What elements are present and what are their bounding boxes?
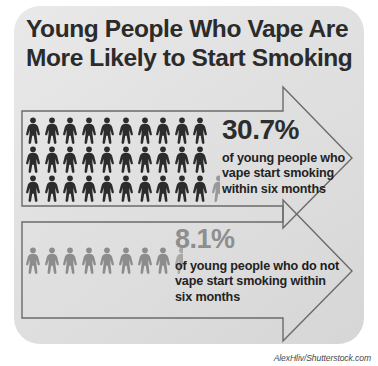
title-line-2: More Likely to Start Smoking: [26, 43, 356, 72]
person-icon: [81, 247, 97, 274]
desc-line-3: six months: [175, 290, 240, 304]
person-icon: [25, 146, 41, 173]
pictogram-grid-vape: [25, 117, 222, 204]
pictogram-row: [25, 117, 222, 144]
person-icon: [99, 247, 115, 274]
person-icon: [25, 117, 41, 144]
pictogram-row: [25, 146, 222, 173]
person-icon: [25, 247, 41, 274]
person-icon: [192, 175, 208, 202]
person-icon: [174, 146, 190, 173]
stat-description-non-vape: of young people who do not vape start sm…: [175, 259, 340, 305]
person-icon: [62, 247, 78, 274]
stat-block-non-vape: 8.1% of young people who do not vape sta…: [175, 226, 340, 305]
person-icon: [81, 146, 97, 173]
person-icon: [62, 146, 78, 173]
stat-percent-non-vape: 8.1%: [175, 226, 340, 253]
person-icon: [118, 117, 134, 144]
person-icon: [137, 175, 153, 202]
person-icon: [155, 247, 171, 274]
person-icon: [192, 117, 208, 144]
person-icon: [99, 175, 115, 202]
person-icon: [137, 146, 153, 173]
person-icon: [192, 146, 208, 173]
desc-line-1: of young people who: [222, 151, 345, 165]
desc-emphasis-do-not: do not: [301, 259, 339, 273]
person-icon: [44, 247, 60, 274]
person-icon: [118, 146, 134, 173]
person-icon: [174, 117, 190, 144]
pictogram-grid-non-vape: [25, 247, 185, 274]
person-icon: [155, 146, 171, 173]
person-icon: [62, 175, 78, 202]
image-credit: AlexHliv/Shutterstock.com: [274, 353, 371, 363]
person-icon: [44, 117, 60, 144]
pictogram-row: [25, 175, 222, 202]
person-icon: [99, 146, 115, 173]
desc-line-3: within six months: [222, 182, 326, 196]
infographic-root: Young People Who Vape Are More Likely to…: [0, 0, 378, 366]
person-icon: [99, 117, 115, 144]
title-line-1: Young People Who Vape Are: [26, 14, 356, 43]
stat-percent-vape: 30.7%: [222, 116, 362, 144]
person-icon: [25, 175, 41, 202]
person-icon: [137, 117, 153, 144]
person-icon: [44, 146, 60, 173]
desc-line-2: vape start smoking within: [175, 274, 326, 288]
person-icon: [44, 175, 60, 202]
person-icon: [137, 247, 153, 274]
pictogram-row: [25, 247, 185, 274]
person-icon: [118, 175, 134, 202]
person-icon: [81, 117, 97, 144]
stat-description-vape: of young people who vape start smoking w…: [222, 151, 362, 197]
desc-line-1a: of young people who: [175, 259, 301, 273]
person-icon: [174, 175, 190, 202]
person-icon: [155, 175, 171, 202]
person-icon: [118, 247, 134, 274]
stat-block-vape: 30.7% of young people who vape start smo…: [222, 116, 362, 197]
person-icon-partial: [211, 175, 220, 202]
person-icon: [62, 117, 78, 144]
person-icon: [81, 175, 97, 202]
person-icon: [155, 117, 171, 144]
page-title: Young People Who Vape Are More Likely to…: [26, 14, 356, 72]
desc-line-2: vape start smoking: [222, 166, 334, 180]
